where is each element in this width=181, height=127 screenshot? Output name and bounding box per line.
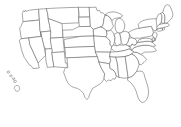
state-south-dakota[interactable] xyxy=(79,17,90,27)
state-hawaii-oahu[interactable] xyxy=(10,75,12,77)
state-michigan-lower[interactable] xyxy=(115,18,125,33)
state-new-mexico[interactable] xyxy=(52,52,67,68)
state-texas[interactable] xyxy=(64,57,105,100)
us-map-svg xyxy=(0,0,181,127)
state-hawaii-molokai[interactable] xyxy=(13,78,15,80)
us-outline-map: Blank outline map of the United States xyxy=(0,0,181,127)
hawaii-inset-group xyxy=(8,71,20,92)
state-hawaii-big-island[interactable] xyxy=(14,85,19,91)
state-colorado[interactable] xyxy=(51,37,65,52)
state-pennsylvania[interactable] xyxy=(129,26,154,38)
state-hawaii-maui[interactable] xyxy=(14,80,16,82)
state-oregon[interactable] xyxy=(20,20,41,39)
state-nebraska[interactable] xyxy=(63,26,94,37)
state-kansas[interactable] xyxy=(64,36,94,48)
contiguous-states-group xyxy=(19,5,173,103)
state-north-dakota[interactable] xyxy=(79,7,90,17)
state-washington[interactable] xyxy=(22,9,39,21)
state-oklahoma[interactable] xyxy=(65,46,97,57)
state-hawaii-kauai[interactable] xyxy=(8,71,10,73)
